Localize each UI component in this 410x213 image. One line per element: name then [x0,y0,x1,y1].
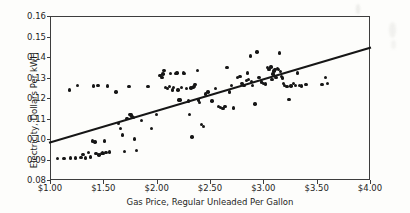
y-tick-mark [47,98,51,99]
x-tick-mark [317,180,318,184]
data-point [62,157,65,160]
data-point [278,51,281,54]
data-point [279,70,282,73]
x-tick-mark [370,180,371,184]
data-point [285,85,288,88]
data-point [274,76,277,79]
data-point [114,90,117,93]
y-tick-mark [47,78,51,79]
data-point [132,116,135,119]
x-tick-mark [50,180,51,184]
data-point [89,155,92,158]
y-tick-mark [47,37,51,38]
data-point [206,90,209,93]
y-tick-label: 0.16 [14,12,46,21]
y-tick-mark [47,16,51,17]
data-point [133,137,136,140]
data-point [93,140,96,143]
x-tick-mark [103,180,104,184]
data-point [69,156,72,159]
x-tick-mark [157,180,158,184]
data-point [249,54,252,57]
data-point [228,90,231,93]
x-tick-label: $3.50 [304,184,328,193]
data-point [270,78,273,81]
data-point [176,88,179,91]
data-point [294,84,297,87]
data-point [162,69,165,72]
plot-data-area [50,16,370,180]
data-point [196,69,199,72]
data-point [225,66,228,69]
data-point [178,98,181,101]
data-point [103,139,106,142]
x-tick-label: $1.50 [91,184,115,193]
data-point [87,151,90,154]
data-point [264,82,267,85]
data-point [121,133,124,136]
data-point [269,65,272,68]
data-point [296,71,299,74]
y-tick-mark [47,160,51,161]
chart-figure: 0.080.090.100.110.120.130.140.150.16 $1.… [0,0,410,213]
data-point [161,72,164,75]
x-tick-label: $3.00 [251,184,275,193]
data-point [125,117,128,120]
x-tick-label: $2.50 [198,184,222,193]
data-point [253,102,256,105]
y-axis-title: Electricity, Dollars Per kWH [30,28,39,192]
data-point [79,156,82,159]
y-tick-mark [47,119,51,120]
data-point [324,76,327,79]
x-tick-mark [263,180,264,184]
data-point [257,76,260,79]
scatter-plot-screenshot: 0.080.090.100.110.120.130.140.150.16 $1.… [0,0,410,213]
x-tick-mark [210,180,211,184]
x-tick-label: $4.00 [358,184,382,193]
y-tick-mark [47,57,51,58]
data-point [281,76,284,79]
data-point [68,88,71,91]
data-point [246,71,249,74]
data-point [255,50,258,53]
x-tick-label: $1.00 [38,184,62,193]
data-point [160,76,163,79]
y-tick-mark [47,139,51,140]
data-point [190,135,193,138]
data-point [210,99,213,102]
data-point [175,71,178,74]
data-point [223,105,226,108]
data-point [84,156,87,159]
x-tick-label: $2.00 [144,184,168,193]
data-point [232,106,235,109]
data-point [238,75,241,78]
data-point [287,98,290,101]
data-point [326,82,329,85]
data-point [74,156,77,159]
x-axis-title: Gas Price, Regular Unleaded Per Gallon [50,198,370,207]
